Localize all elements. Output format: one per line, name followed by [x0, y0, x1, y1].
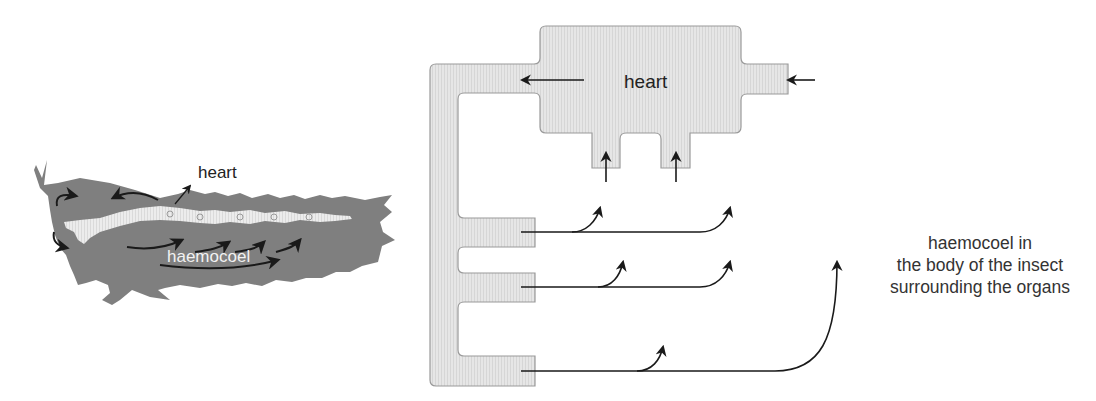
circulation-schematic: heart	[430, 26, 837, 386]
caption-line-3: surrounding the organs	[880, 276, 1080, 298]
insect-heart-label: heart	[198, 163, 237, 182]
haemocoel-caption: haemocoel in the body of the insect surr…	[880, 232, 1080, 298]
vessel-network	[430, 26, 788, 386]
open-circulatory-system-diagram: heart haemocoel heart haemocoel in the b…	[0, 0, 1096, 401]
insect-haemocoel-label: haemocoel	[167, 247, 250, 266]
caption-line-2: the body of the insect	[880, 254, 1080, 276]
caption-line-1: haemocoel in	[880, 232, 1080, 254]
schematic-heart-label: heart	[624, 71, 668, 92]
haemocoel-flow-arrows	[521, 208, 837, 371]
